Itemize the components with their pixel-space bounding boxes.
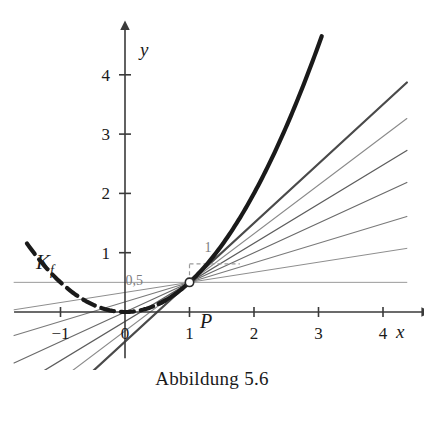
x-tick-label-0: 0 <box>121 324 130 343</box>
y-tick-label-3: 3 <box>102 125 111 144</box>
y-axis-label: y <box>138 39 149 60</box>
x-tick-label-3: 3 <box>314 324 323 343</box>
curve-kf-solid-segment <box>159 36 322 304</box>
curve-kf-label-base: K <box>35 250 51 274</box>
figure-caption: Abbildung 5.6 <box>0 368 424 390</box>
plot-area: −101234 1234 y x Kf P 1 <box>0 0 424 370</box>
point-p-label: P <box>199 310 212 332</box>
x-axis-tick-labels: −101234 <box>51 324 387 343</box>
point-marker-layer <box>185 278 193 286</box>
x-tick-label-2: 2 <box>250 324 259 343</box>
axes-layer: −101234 1234 <box>14 29 423 359</box>
x-tick-label--1: −1 <box>51 324 69 343</box>
x-axis-label: x <box>395 321 405 342</box>
label-layer: y x Kf P 1 0,5 <box>35 39 405 342</box>
y-axis-tick-labels: 1234 <box>102 66 111 263</box>
curve-kf-label: Kf <box>35 250 56 278</box>
function-curve-layer <box>27 36 322 312</box>
x-tick-label-4: 4 <box>379 324 388 343</box>
figure-abbildung-5-6: −101234 1234 y x Kf P 1 <box>0 0 424 422</box>
run-value-label: 1 <box>205 240 212 255</box>
secant-line-secant-3 <box>14 182 407 363</box>
y-tick-label-1: 1 <box>102 244 111 263</box>
y-tick-label-2: 2 <box>102 184 111 203</box>
point-p-marker <box>185 278 193 286</box>
x-tick-label-1: 1 <box>185 324 194 343</box>
y-tick-label-4: 4 <box>102 66 111 85</box>
rise-value-label: 0,5 <box>126 273 144 288</box>
coordinate-plot: −101234 1234 y x Kf P 1 <box>0 0 424 370</box>
